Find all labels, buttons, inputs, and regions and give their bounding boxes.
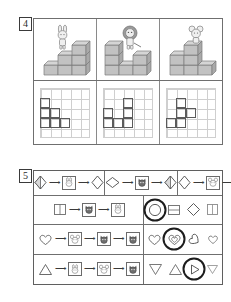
puzzle-row-2-sequence[interactable]: ⟶ ⟶	[34, 225, 144, 253]
cat-icon	[84, 204, 94, 215]
arrow-icon: ⟶	[49, 179, 60, 187]
machine-cat[interactable]	[82, 203, 96, 217]
machine-rabbit[interactable]	[62, 176, 76, 190]
diamond-wide-icon	[105, 176, 120, 189]
cat-icon	[128, 264, 138, 275]
grid-cell-lion[interactable]	[97, 81, 160, 144]
puzzle-row-2: ⟶ ⟶	[34, 225, 222, 254]
machine-mouse[interactable]	[206, 176, 220, 190]
diamond-half-filled-icon	[34, 175, 47, 190]
grid-plan-shape	[103, 88, 153, 138]
scene-cell-mouse[interactable]	[160, 19, 222, 80]
rabbit-figure	[58, 25, 67, 49]
rabbit-on-stairs-icon	[36, 21, 94, 79]
option-triangle-right-selected[interactable]	[188, 263, 201, 276]
grid-plan-shape	[40, 88, 90, 138]
grid-plan-shape	[166, 88, 216, 138]
diamond-plain-icon[interactable]	[186, 202, 201, 217]
mouse-icon	[70, 234, 80, 245]
arrow-icon: ⟶	[98, 206, 109, 214]
arrow-icon: ⟶	[193, 179, 204, 187]
machine-chain-3[interactable]: ⟶ ⟶	[178, 171, 231, 195]
machine-rabbit[interactable]	[68, 262, 82, 276]
arrow-icon: ⟶	[69, 206, 80, 214]
exercise-4-panel	[33, 18, 223, 145]
triangle-down-icon[interactable]	[148, 263, 163, 276]
arrow-icon: ⟶	[78, 179, 89, 187]
cube-scene-mouse	[162, 21, 220, 79]
rectangle-split-icon[interactable]	[206, 203, 219, 216]
grid-cell-mouse[interactable]	[160, 81, 222, 144]
rabbit-icon	[113, 204, 123, 215]
arrow-icon: ⟶	[113, 265, 124, 273]
lion-on-stairs-icon	[99, 21, 157, 79]
answer-grid-rabbit[interactable]	[40, 88, 90, 138]
puzzle-row-1: ⟶ ⟶	[34, 196, 222, 225]
machine-chain-1[interactable]: ⟶ ⟶	[34, 171, 105, 195]
sequence: ⟶ ⟶	[105, 175, 177, 190]
diamond-plain-icon	[91, 175, 104, 190]
cube-scene-rabbit	[36, 21, 94, 79]
option-circle-selected[interactable]	[148, 203, 162, 217]
grid-cell-rabbit[interactable]	[34, 81, 97, 144]
worksheet-page: 4	[0, 0, 231, 302]
arrow-icon: ⟶	[84, 265, 95, 273]
mouse-icon	[208, 177, 218, 188]
rectangle-striped-icon[interactable]	[167, 204, 181, 216]
arrow-icon: ⟶	[222, 179, 231, 187]
triangle-right-icon	[188, 263, 201, 276]
arrow-icon: ⟶	[55, 265, 66, 273]
answer-grid-lion[interactable]	[103, 88, 153, 138]
exercise-4-scenes-row	[34, 19, 222, 81]
exercise-number-5: 5	[19, 169, 32, 183]
machine-cat[interactable]	[135, 176, 149, 190]
scene-cell-lion[interactable]	[97, 19, 160, 80]
heart-plain-icon[interactable]	[147, 233, 162, 246]
mouse-figure	[189, 26, 203, 43]
heart-small-icon[interactable]	[206, 233, 220, 245]
puzzle-row-2-options[interactable]	[144, 225, 222, 253]
triangle-up-icon[interactable]	[168, 263, 183, 276]
arrow-icon: ⟶	[151, 179, 162, 187]
sequence: ⟶ ⟶	[178, 175, 231, 190]
arrow-icon: ⟶	[55, 235, 66, 243]
cat-icon	[128, 234, 138, 245]
puzzle-row-3-sequence[interactable]: ⟶ ⟶	[34, 255, 144, 284]
machine-mouse[interactable]	[68, 232, 82, 246]
machine-cat[interactable]	[97, 232, 111, 246]
heart-icon	[38, 233, 53, 246]
machine-chain-2[interactable]: ⟶ ⟶	[105, 171, 178, 195]
rectangle-split-icon	[53, 203, 67, 216]
cube-scene-lion	[99, 21, 157, 79]
example-chains-row: ⟶ ⟶	[34, 171, 222, 196]
exercise-4-grids-row	[34, 81, 222, 144]
machine-cat[interactable]	[126, 232, 140, 246]
heart-rotated-icon[interactable]	[187, 233, 201, 246]
sequence: ⟶ ⟶	[38, 232, 140, 246]
arrow-icon: ⟶	[122, 179, 133, 187]
machine-mouse[interactable]	[97, 262, 111, 276]
mouse-on-stairs-icon	[162, 21, 220, 79]
heart-nested-icon	[167, 233, 182, 246]
puzzle-row-3-options[interactable]	[144, 255, 222, 284]
sequence: ⟶ ⟶	[34, 175, 104, 190]
puzzle-row-3: ⟶ ⟶	[34, 255, 222, 284]
machine-rabbit[interactable]	[111, 203, 125, 217]
triangle-down-small-icon[interactable]	[206, 264, 219, 275]
exercise-5-panel: ⟶ ⟶	[33, 170, 223, 285]
machine-cat[interactable]	[126, 262, 140, 276]
puzzle-row-1-sequence[interactable]: ⟶ ⟶	[34, 196, 144, 224]
rabbit-icon	[64, 177, 74, 188]
option-list	[148, 202, 219, 217]
diamond-half-filled-icon	[164, 175, 177, 190]
puzzle-row-1-options[interactable]	[144, 196, 222, 224]
arrow-icon: ⟶	[113, 235, 124, 243]
mouse-icon	[99, 264, 109, 275]
scene-cell-rabbit[interactable]	[34, 19, 97, 80]
lion-figure	[123, 26, 141, 49]
answer-grid-mouse[interactable]	[166, 88, 216, 138]
arrow-icon: ⟶	[84, 235, 95, 243]
rabbit-icon	[70, 264, 80, 275]
diamond-plain-icon	[178, 175, 191, 190]
option-heart-nested-selected[interactable]	[167, 233, 182, 246]
